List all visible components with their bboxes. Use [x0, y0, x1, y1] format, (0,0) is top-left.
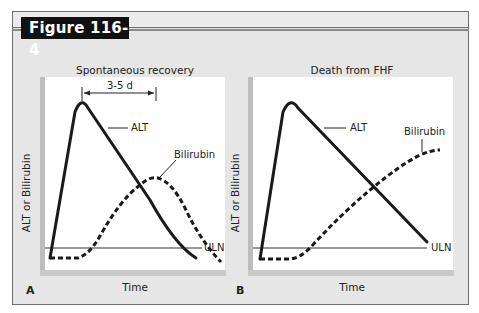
chart-curves: ULN 3-5 d ALT Bilirubin ULN ALT Bilirubi…	[0, 0, 479, 313]
panel-a-interval-label: 3-5 d	[107, 80, 133, 91]
panel-b-curves: ULN ALT Bilirubin	[253, 103, 451, 259]
panel-b-alt-curve	[260, 103, 427, 259]
panel-b-alt-label: ALT	[350, 122, 368, 133]
panel-a-alt-curve	[50, 103, 196, 258]
arrow-left-icon	[84, 91, 90, 96]
panel-b-bilirubin-curve	[260, 150, 440, 259]
panel-a-curves: ULN 3-5 d ALT Bilirubin	[45, 80, 224, 262]
panel-b-bilirubin-label: Bilirubin	[404, 126, 445, 137]
panel-a-bilirubin-curve	[50, 178, 221, 262]
panel-a-bilirubin-label: Bilirubin	[174, 149, 215, 160]
arrow-right-icon	[148, 91, 154, 96]
panel-b-uln-label: ULN	[431, 242, 451, 253]
panel-a-bilirubin-leader	[160, 160, 176, 177]
panel-a-alt-label: ALT	[131, 122, 149, 133]
